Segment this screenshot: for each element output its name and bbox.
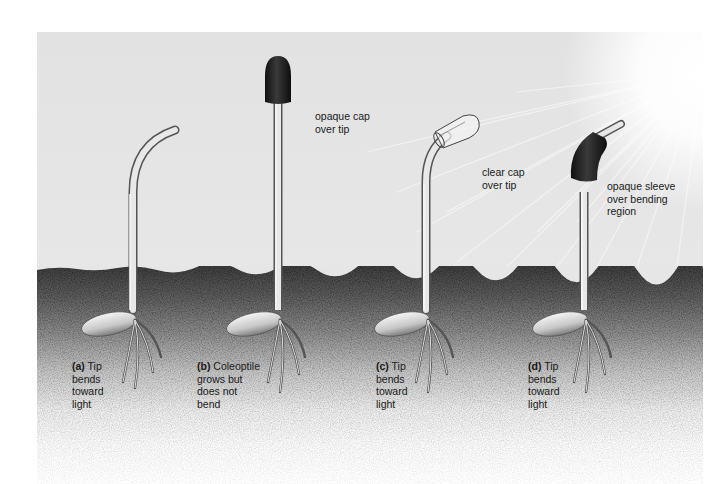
caption-a: (a) Tip bends toward light [72, 360, 104, 410]
caption-line: light [528, 398, 560, 411]
caption-line: Tip [88, 360, 102, 372]
treatment-line: opaque cap [315, 110, 370, 123]
seedlings [37, 32, 703, 484]
caption-c: (c) Tip bends toward light [376, 360, 408, 410]
caption-letter: (c) [376, 360, 389, 372]
caption-line: bend [197, 398, 260, 411]
seedling-c [372, 115, 479, 392]
caption-line: bends [72, 373, 104, 386]
caption-line: Coleoptile [213, 360, 260, 372]
treatment-label-c: clear cap over tip [482, 166, 525, 191]
caption-line: toward [376, 385, 408, 398]
caption-line: bends [528, 373, 560, 386]
caption-letter: (b) [197, 360, 210, 372]
treatment-line: over bending [607, 193, 675, 206]
treatment-line: over tip [482, 179, 525, 192]
opaque-cap-icon [265, 56, 291, 104]
treatment-line: clear cap [482, 166, 525, 179]
caption-line: Tip [544, 360, 558, 372]
opaque-sleeve-icon [571, 132, 607, 182]
caption-line: bends [376, 373, 408, 386]
caption-letter: (d) [528, 360, 541, 372]
caption-line: light [72, 398, 104, 411]
caption-line: toward [528, 385, 560, 398]
seedling-a [79, 130, 175, 388]
treatment-label-b: opaque cap over tip [315, 110, 370, 135]
treatment-line: over tip [315, 123, 370, 136]
caption-b: (b) Coleoptile grows but does not bend [197, 360, 260, 410]
seedling-b [224, 56, 305, 392]
caption-line: does not [197, 385, 260, 398]
treatment-label-d: opaque sleeve over bending region [607, 180, 675, 218]
caption-line: light [376, 398, 408, 411]
figure-panel: opaque cap over tip clear cap over tip o… [37, 32, 703, 484]
caption-letter: (a) [72, 360, 85, 372]
caption-line: Tip [392, 360, 406, 372]
caption-d: (d) Tip bends toward light [528, 360, 560, 410]
caption-line: grows but [197, 373, 260, 386]
seedling-d [530, 124, 621, 392]
treatment-line: region [607, 205, 675, 218]
caption-line: toward [72, 385, 104, 398]
treatment-line: opaque sleeve [607, 180, 675, 193]
